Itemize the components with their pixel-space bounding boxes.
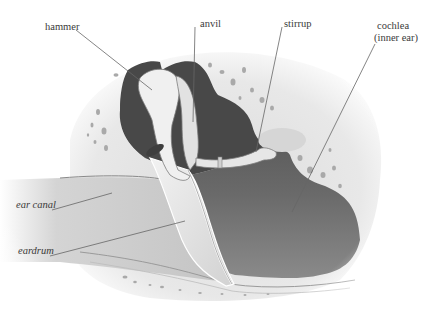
label-cochlea-line2: (inner ear)	[374, 32, 418, 44]
label-ear-canal: ear canal	[16, 199, 56, 211]
label-hammer: hammer	[45, 21, 79, 33]
middle-ear-diagram	[0, 0, 423, 316]
label-stirrup: stirrup	[284, 18, 311, 30]
label-eardrum: eardrum	[18, 245, 54, 257]
edge-vignette	[0, 0, 423, 316]
label-cochlea-line1: cochlea	[377, 20, 418, 32]
label-anvil: anvil	[200, 18, 221, 30]
label-cochlea: cochlea (inner ear)	[377, 20, 418, 44]
